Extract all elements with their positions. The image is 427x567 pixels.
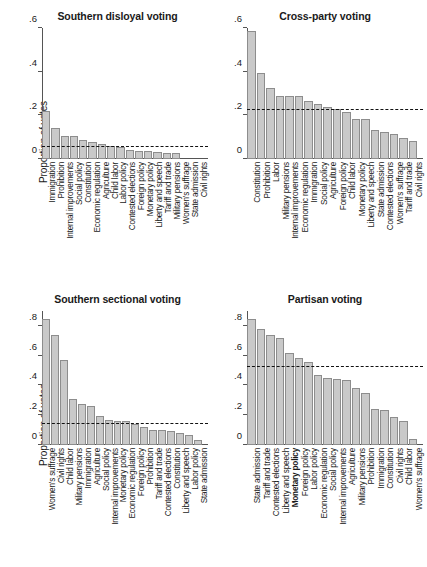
x-axis-label: Labor policy (185, 448, 193, 548)
x-axis-label: State admission (185, 162, 193, 262)
bar (116, 147, 124, 159)
x-axis-label: Tariff and trade (257, 448, 266, 548)
y-axis-tick (243, 384, 247, 385)
bar (276, 338, 285, 445)
x-axis-label: Foreign policy (131, 448, 139, 548)
x-axis-label-text: Civil rights (416, 162, 424, 197)
y-axis-tick-label: 0 (237, 145, 242, 155)
x-axis-label: Agriculture (323, 162, 332, 262)
x-axis-label: Immigration (78, 448, 86, 548)
bar (153, 152, 161, 159)
bar (78, 404, 86, 445)
bar (266, 88, 275, 159)
y-axis-tick (243, 71, 247, 72)
bar (380, 410, 389, 445)
bar (42, 319, 50, 445)
bar (122, 421, 130, 445)
figure-grid: Southern disloyal voting Proportion of v… (0, 0, 427, 567)
x-axis-label: Immigration (42, 162, 50, 262)
bar-series (247, 28, 417, 159)
x-axis-label: Liberty and speech (361, 162, 370, 262)
x-axis-label: Labor policy (114, 162, 122, 262)
chart-panel-southern-disloyal-voting: Southern disloyal voting Proportion of v… (0, 0, 213, 283)
bar (172, 153, 180, 159)
x-axis-label: Labor (266, 162, 275, 262)
x-axis-labels: ConstitutionProhibitionLaborMilitary pen… (247, 162, 417, 262)
bar (131, 424, 139, 445)
bar (247, 31, 256, 159)
bar (42, 111, 50, 159)
bar (79, 140, 87, 159)
bar (61, 136, 69, 159)
bar (295, 96, 304, 159)
x-axis-label: Women's suffrage (390, 162, 399, 262)
bar (323, 107, 332, 159)
y-axis-tick-label: 0 (237, 431, 242, 441)
x-axis-label: Foreign policy (131, 162, 139, 262)
bar (87, 406, 95, 445)
x-axis-label: Social policy (96, 448, 104, 548)
x-axis-labels: Women's suffrageCivil rightsChild laborM… (42, 448, 202, 548)
bar (96, 416, 104, 445)
bar-series (247, 311, 417, 445)
y-axis-tick-label: .2 (29, 102, 37, 112)
y-axis-tick (243, 355, 247, 356)
plot-area: 0.2.4.6.8 (247, 311, 417, 445)
y-axis-tick (38, 325, 42, 326)
plot-area: 0.2.4.6.8 (42, 311, 202, 445)
x-axis-label: Internal improvements (333, 448, 342, 548)
bar (409, 439, 418, 445)
x-axis-label: Monetary policy (114, 448, 122, 548)
chart-title: Southern sectional voting (0, 293, 213, 305)
y-axis-tick-label: .2 (234, 401, 242, 411)
x-axis-label: Liberty and speech (276, 448, 285, 548)
bar (323, 378, 332, 445)
x-axis-label: Child labor (342, 162, 351, 262)
x-axis-label: Child labor (105, 162, 113, 262)
y-axis-tick-label: .8 (29, 312, 37, 322)
x-axis-label: Economic regulation (295, 162, 304, 262)
bar (266, 335, 275, 445)
chart-title: Cross-party voting (213, 10, 427, 22)
x-axis-label: Military pensions (276, 162, 285, 262)
x-axis-label: Child labor (60, 448, 68, 548)
x-axis-label: Women's suffrage (176, 162, 184, 262)
bar (176, 433, 184, 445)
bar (144, 151, 152, 159)
plot-area: 0.2.4.6 (247, 28, 417, 159)
x-axis-label: Monetary policy (352, 162, 361, 262)
reference-line (42, 146, 208, 147)
chart-panel-cross-party-voting: Cross-party voting 0.2.4.6 ConstitutionP… (213, 0, 427, 283)
x-axis-label: Monetary policy (140, 162, 148, 262)
y-axis-tick-label: .4 (29, 372, 37, 382)
y-axis-tick (38, 414, 42, 415)
bar (342, 112, 351, 159)
y-axis-tick (243, 444, 247, 445)
x-axis-label: Internal improvements (60, 162, 68, 262)
y-axis-tick-label: .4 (234, 58, 242, 68)
x-axis-label: Foreign policy (333, 162, 342, 262)
y-axis-tick (243, 158, 247, 159)
plot-area: 0.2.4.6 (42, 28, 202, 159)
bar (295, 358, 304, 445)
y-axis-tick-label: .4 (234, 372, 242, 382)
x-axis-label: Agriculture (87, 448, 95, 548)
y-axis-tick-label: 0 (32, 145, 37, 155)
bar (390, 417, 399, 445)
bar-series (42, 311, 202, 445)
bar-series (42, 28, 202, 159)
x-axis-label: Social policy (323, 448, 332, 548)
x-axis-label: Civil rights (390, 448, 399, 548)
x-axis-label: Liberty and speech (176, 448, 184, 548)
reference-line (42, 423, 208, 424)
bar (409, 141, 418, 159)
x-axis-label: Agriculture (96, 162, 104, 262)
x-axis-label-text: Civil rights (201, 162, 209, 197)
reference-line (247, 109, 423, 110)
y-axis-tick (38, 71, 42, 72)
x-axis-labels: ImmigrationProhibitionInternal improveme… (42, 162, 202, 262)
bar (371, 130, 380, 159)
bar (352, 119, 361, 159)
y-axis-tick (38, 114, 42, 115)
x-axis-label: Civil rights (194, 162, 202, 262)
